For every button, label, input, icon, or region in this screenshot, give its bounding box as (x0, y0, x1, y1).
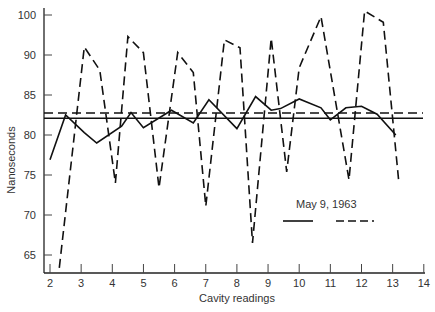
x-tick-label: 9 (265, 277, 271, 289)
x-tick-label: 10 (293, 277, 305, 289)
chart: 234567891011121314100908580757065 May 9,… (0, 0, 435, 312)
legend: May 9, 1963 (283, 198, 374, 221)
y-tick-label: 75 (24, 169, 36, 181)
x-tick-label: 6 (172, 277, 178, 289)
x-tick-label: 3 (78, 277, 84, 289)
x-axis-label: Cavity readings (199, 292, 275, 304)
legend-title: May 9, 1963 (296, 198, 357, 210)
x-tick-label: 14 (418, 277, 430, 289)
x-tick-label: 4 (109, 277, 115, 289)
y-tick-label: 85 (24, 89, 36, 101)
y-tick-label: 90 (24, 49, 36, 61)
y-axis-label: Nanoseconds (5, 126, 17, 194)
x-tick-label: 11 (325, 277, 336, 289)
series (50, 11, 399, 268)
x-tick-label: 5 (140, 277, 146, 289)
y-tick-label: 100 (18, 9, 36, 21)
x-tick-label: 12 (355, 277, 367, 289)
y-tick-label: 70 (24, 209, 36, 221)
series-dashed (59, 11, 399, 268)
x-tick-label: 7 (203, 277, 209, 289)
x-tick-label: 8 (234, 277, 240, 289)
x-tick-label: 2 (47, 277, 53, 289)
mean-lines (44, 113, 423, 118)
x-tick-label: 13 (387, 277, 399, 289)
y-tick-label: 65 (24, 249, 36, 261)
y-tick-label: 80 (24, 129, 36, 141)
